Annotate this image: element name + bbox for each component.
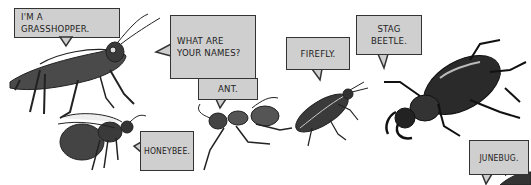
bubble-text-ant: ANT. bbox=[218, 83, 238, 95]
speech-bubble-stag-beetle: STAG BEETLE. bbox=[356, 15, 422, 55]
speech-bubble-grasshopper: I'M A GRASSHOPPER. bbox=[14, 8, 120, 38]
bubble-text-honeybee: HONEYBEE. bbox=[144, 145, 190, 157]
honeybee-illustration bbox=[58, 114, 146, 170]
speech-bubble-honeybee: HONEYBEE. bbox=[140, 131, 194, 171]
speech-bubble-question: WHAT ARE YOUR NAMES? bbox=[170, 15, 256, 79]
speech-bubble-ant: ANT. bbox=[198, 78, 258, 100]
bubble-text-firefly: FIREFLY. bbox=[301, 48, 336, 60]
comic-panel: I'M A GRASSHOPPER. WHAT ARE YOUR NAMES? … bbox=[0, 0, 531, 185]
speech-bubble-firefly: FIREFLY. bbox=[286, 37, 350, 70]
bubble-text-question: WHAT ARE YOUR NAMES? bbox=[177, 35, 241, 59]
firefly-illustration bbox=[290, 82, 368, 146]
bubble-text-stag-beetle: STAG BEETLE. bbox=[371, 23, 407, 47]
speech-bubble-junebug: JUNEBUG. bbox=[469, 140, 529, 175]
ant-illustration bbox=[198, 97, 292, 170]
bubble-text-grasshopper: I'M A GRASSHOPPER. bbox=[21, 11, 89, 35]
bubble-text-junebug: JUNEBUG. bbox=[479, 152, 518, 164]
